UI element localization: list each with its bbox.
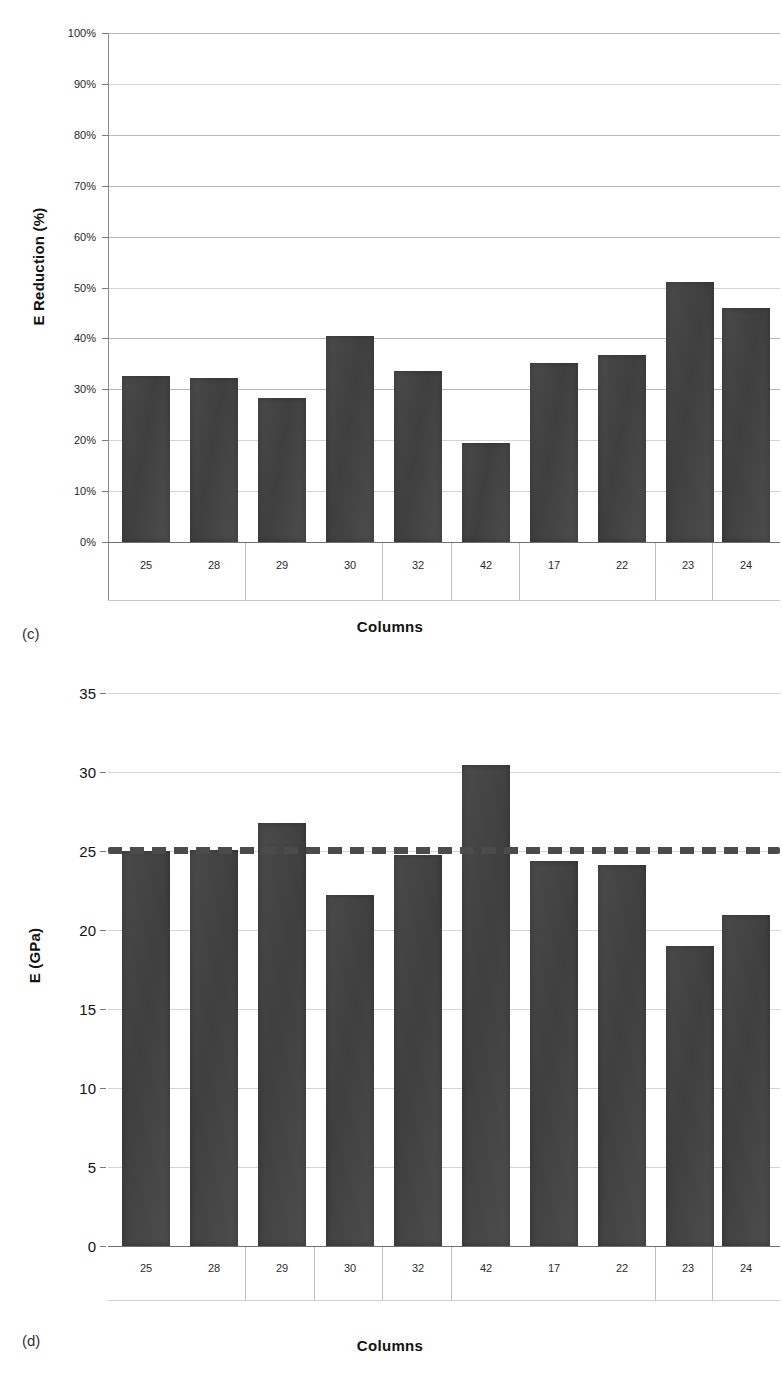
panel-d-x-axis-title: Columns — [20, 1337, 760, 1354]
panel-c-ytick-label: 10% — [38, 486, 96, 497]
category-separator — [655, 1247, 656, 1300]
reference-line-25gpa — [108, 847, 780, 854]
axis-tick — [100, 851, 106, 852]
axis-tick — [100, 1088, 106, 1089]
panel-d-xtick-label: 25 — [140, 1262, 152, 1274]
panel-d-ytick-label: 0 — [44, 1239, 96, 1254]
panel-c-y-axis — [108, 33, 109, 600]
category-separator — [451, 543, 452, 600]
category-separator — [655, 543, 656, 600]
panel-c-x-axis-title: Columns — [20, 618, 760, 635]
panel-d-tag: (d) — [22, 1332, 40, 1349]
bar-col-24 — [722, 308, 770, 542]
panel-d-ytick-label: 10 — [44, 1081, 96, 1096]
panel-c-chart: E Reduction (%) 100% 90% 80% 70% 60% 50%… — [0, 0, 782, 660]
panel-c-ytick-label: 80% — [38, 130, 96, 141]
bar-col-23 — [666, 282, 714, 542]
panel-c-xtick-label: 32 — [412, 559, 424, 571]
axis-tick — [100, 1009, 106, 1010]
category-separator — [451, 1247, 452, 1300]
panel-d-ytick-label: 25 — [44, 844, 96, 859]
gridline — [108, 772, 780, 773]
panel-c-ytick-label: 20% — [38, 435, 96, 446]
panel-d-chart: E (GPa) 35 30 25 20 15 10 5 0 25 28 29 3… — [0, 660, 782, 1387]
gridline — [108, 33, 780, 34]
panel-d-xtick-label: 24 — [740, 1262, 752, 1274]
panel-c-xtick-label: 25 — [140, 559, 152, 571]
panel-d-ytick-label: 15 — [44, 1002, 96, 1017]
panel-c-xtick-label: 17 — [548, 559, 560, 571]
panel-c-ytick-label: 90% — [38, 79, 96, 90]
gridline — [108, 84, 780, 85]
bar-col-29 — [258, 823, 306, 1246]
panel-c-xtick-label: 24 — [740, 559, 752, 571]
gridline — [108, 186, 780, 187]
axis-tick — [100, 930, 106, 931]
bar-col-29 — [258, 398, 306, 542]
panel-d-label-band-bottom — [108, 1300, 780, 1301]
panel-d-ytick-label: 30 — [44, 765, 96, 780]
category-separator — [712, 1247, 713, 1300]
panel-d-xtick-label: 29 — [276, 1262, 288, 1274]
panel-c-ytick-label: 40% — [38, 333, 96, 344]
panel-c-ytick-label: 70% — [38, 181, 96, 192]
bar-col-17 — [530, 861, 578, 1246]
bar-col-25 — [122, 851, 170, 1246]
bar-col-42 — [462, 443, 510, 542]
panel-c-label-band-bottom — [108, 600, 780, 601]
panel-d-xtick-label: 22 — [616, 1262, 628, 1274]
bar-col-30 — [326, 336, 374, 542]
category-separator — [382, 1247, 383, 1300]
bar-col-32 — [394, 855, 442, 1246]
category-separator — [245, 543, 246, 600]
panel-d-xtick-label: 23 — [682, 1262, 694, 1274]
panel-d-xtick-label: 42 — [480, 1262, 492, 1274]
category-separator — [245, 1247, 246, 1300]
bar-col-22 — [598, 865, 646, 1246]
panel-d-y-axis-title: E (GPa) — [26, 866, 43, 1046]
panel-d-xtick-label: 28 — [208, 1262, 220, 1274]
bar-col-30 — [326, 895, 374, 1246]
panel-c-ytick-label: 30% — [38, 384, 96, 395]
bar-col-32 — [394, 371, 442, 542]
bar-col-28 — [190, 378, 238, 542]
panel-c-tag: (c) — [22, 625, 40, 642]
category-separator — [314, 1247, 315, 1300]
panel-c-xtick-label: 22 — [616, 559, 628, 571]
gridline — [108, 693, 780, 694]
axis-tick — [100, 693, 106, 694]
axis-tick — [100, 772, 106, 773]
panel-c-xtick-label: 28 — [208, 559, 220, 571]
panel-d-ytick-label: 20 — [44, 923, 96, 938]
axis-tick — [100, 1246, 106, 1247]
panel-c-xtick-label: 29 — [276, 559, 288, 571]
bar-col-24 — [722, 915, 770, 1246]
bar-col-28 — [190, 850, 238, 1246]
panel-c-xtick-label: 30 — [344, 559, 356, 571]
panel-c-xtick-label: 23 — [682, 559, 694, 571]
panel-d-ytick-label: 5 — [44, 1160, 96, 1175]
bar-col-25 — [122, 376, 170, 542]
panel-c-ytick-label: 60% — [38, 232, 96, 243]
panel-d-xtick-label: 30 — [344, 1262, 356, 1274]
gridline — [108, 237, 780, 238]
category-separator — [712, 543, 713, 600]
category-separator — [382, 543, 383, 600]
panel-d-ytick-label: 35 — [44, 686, 96, 701]
bar-col-22 — [598, 355, 646, 542]
axis-tick — [100, 1167, 106, 1168]
panel-c-ytick-label: 100% — [38, 28, 96, 39]
bar-col-42 — [462, 765, 510, 1246]
panel-d-xtick-label: 32 — [412, 1262, 424, 1274]
bar-col-23 — [666, 946, 714, 1246]
panel-c-x-axis — [108, 542, 780, 543]
panel-c-xtick-label: 42 — [480, 559, 492, 571]
panel-d-xtick-label: 17 — [548, 1262, 560, 1274]
panel-c-ytick-label: 0% — [38, 537, 96, 548]
panel-d-x-axis — [108, 1246, 780, 1247]
category-separator — [519, 543, 520, 600]
bar-col-17 — [530, 363, 578, 542]
panel-c-ytick-label: 50% — [38, 283, 96, 294]
gridline — [108, 135, 780, 136]
